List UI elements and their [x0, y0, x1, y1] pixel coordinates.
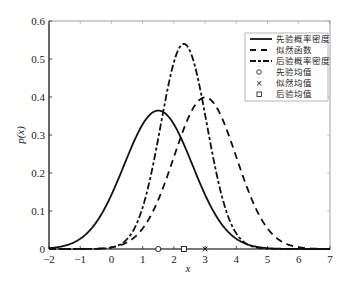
legend-likelihood-mean: 似然均值 [276, 78, 312, 88]
x-tick-label: 2 [171, 253, 177, 265]
y-tick-label: 0.4 [31, 91, 45, 103]
curve-dashed [49, 97, 330, 249]
x-tick-label: 5 [265, 253, 271, 265]
legend-prior-mean: 先验均值 [276, 67, 312, 77]
y-tick-label: 0.5 [31, 53, 45, 65]
curve-solid [49, 111, 330, 249]
chart: −2−10123456700.10.20.30.40.50.6 x p(x) 先… [0, 0, 349, 290]
legend-posterior: 后验概率密度 [276, 56, 330, 66]
y-axis-label: p(x) [14, 126, 27, 145]
y-tick-label: 0.1 [31, 205, 45, 217]
x-tick-label: 7 [327, 253, 333, 265]
legend: 先验概率密度 似然函数 后验概率密度 先验均值 × 似然均值 后验均值 [245, 33, 330, 101]
legend-likelihood: 似然函数 [276, 45, 312, 55]
posterior-mean-marker [181, 247, 186, 252]
x-marker-icon: × [256, 79, 263, 88]
y-tick-label: 0.3 [31, 129, 45, 141]
y-tick-label: 0 [40, 243, 46, 255]
x-tick-label: −1 [74, 253, 86, 265]
y-tick-label: 0.6 [31, 15, 45, 27]
x-tick-label: 4 [234, 253, 240, 265]
legend-posterior-mean: 后验均值 [276, 89, 312, 99]
x-tick-label: 6 [296, 253, 302, 265]
prior-mean-marker [156, 246, 161, 251]
x-tick-label: 0 [109, 253, 115, 265]
y-tick-label: 0.2 [31, 167, 45, 179]
x-tick-label: 3 [202, 253, 208, 265]
x-axis-label: x [185, 262, 191, 274]
x-tick-label: 1 [140, 253, 146, 265]
legend-prior: 先验概率密度 [276, 34, 330, 44]
